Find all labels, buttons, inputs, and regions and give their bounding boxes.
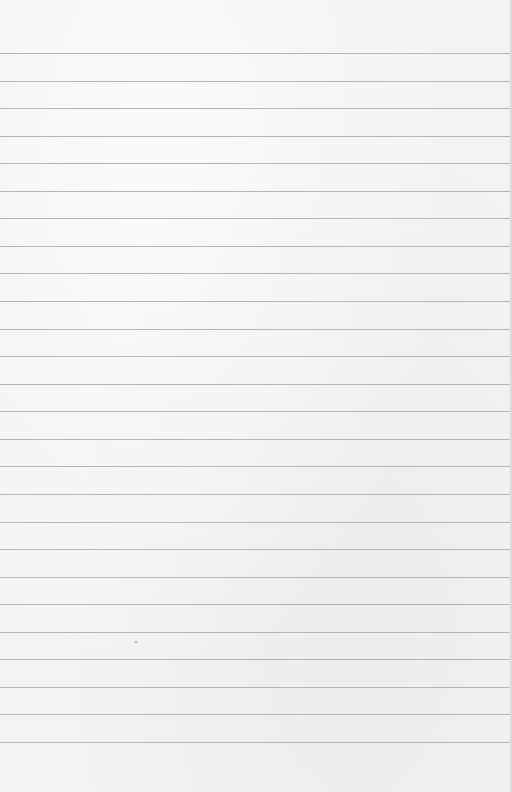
ruled-line — [0, 163, 510, 164]
ruled-line — [0, 136, 510, 137]
ruled-line — [0, 687, 510, 688]
ruled-line — [0, 714, 510, 715]
ruled-line — [0, 246, 510, 247]
ruled-line — [0, 742, 510, 743]
ruled-line — [0, 577, 510, 578]
ruled-line — [0, 466, 510, 467]
ruled-line — [0, 329, 510, 330]
ruled-line — [0, 494, 510, 495]
ruled-line — [0, 411, 510, 412]
lined-paper — [0, 0, 512, 792]
ruled-line — [0, 549, 510, 550]
ruled-line — [0, 191, 510, 192]
ruled-line — [0, 356, 510, 357]
ruled-line — [0, 218, 510, 219]
ruled-line — [0, 301, 510, 302]
paper-speck — [135, 641, 137, 643]
ruled-line — [0, 53, 510, 54]
ruled-line — [0, 659, 510, 660]
ruled-line — [0, 273, 510, 274]
ruled-line — [0, 81, 510, 82]
ruled-line — [0, 384, 510, 385]
ruled-line — [0, 522, 510, 523]
ruled-line — [0, 439, 510, 440]
ruled-line — [0, 632, 510, 633]
ruled-line — [0, 604, 510, 605]
ruled-line — [0, 108, 510, 109]
